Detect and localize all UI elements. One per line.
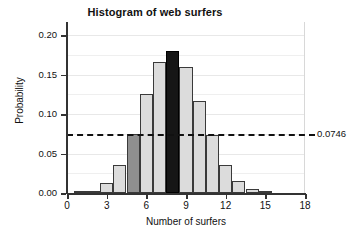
histogram-bar: [153, 62, 166, 193]
histogram-bar: [140, 94, 153, 193]
y-tick-label: 0.00: [39, 187, 58, 198]
x-tick-mark: [186, 194, 188, 199]
histogram-bar: [100, 183, 113, 193]
histogram-figure: Histogram of web surfers 0.0746 0.000.05…: [0, 0, 364, 242]
y-tick-mark: [61, 35, 66, 37]
x-tick-label: 9: [176, 200, 196, 211]
x-tick-mark: [265, 194, 267, 199]
y-tick-mark: [61, 114, 66, 116]
histogram-bar: [219, 165, 232, 193]
x-tick-label: 6: [136, 200, 156, 211]
x-tick-label: 3: [97, 200, 117, 211]
histogram-bar: [193, 101, 206, 193]
y-axis-line: [66, 22, 68, 194]
histogram-bar: [232, 181, 245, 193]
histogram-bar: [206, 135, 219, 193]
gridline: [67, 55, 305, 56]
histogram-bar: [179, 67, 192, 193]
reference-line-label: 0.0746: [317, 128, 346, 139]
x-axis-title: Number of surfers: [67, 216, 305, 227]
gridline: [67, 35, 305, 36]
y-tick-mark: [61, 154, 66, 156]
y-tick-label: 0.05: [39, 148, 58, 159]
x-tick-mark: [67, 194, 69, 199]
chart-title: Histogram of web surfers: [0, 6, 310, 18]
plot-frame-right-edge: [304, 22, 305, 193]
y-axis-title: Probability: [14, 61, 25, 141]
histogram-bar: [113, 165, 126, 193]
y-tick-label: 0.15: [39, 69, 58, 80]
x-tick-mark: [107, 194, 109, 199]
x-tick-label: 12: [216, 200, 236, 211]
x-tick-mark: [226, 194, 228, 199]
x-tick-label: 15: [255, 200, 275, 211]
histogram-bar: [166, 51, 179, 193]
y-tick-mark: [61, 193, 66, 195]
x-tick-label: 0: [57, 200, 77, 211]
y-tick-label: 0.20: [39, 29, 58, 40]
x-tick-mark: [305, 194, 307, 199]
y-tick-label: 0.10: [39, 108, 58, 119]
y-tick-mark: [61, 75, 66, 77]
histogram-bar: [127, 134, 140, 193]
reference-line: [67, 134, 315, 136]
plot-area: [67, 22, 305, 193]
x-tick-label: 18: [295, 200, 315, 211]
x-tick-mark: [146, 194, 148, 199]
